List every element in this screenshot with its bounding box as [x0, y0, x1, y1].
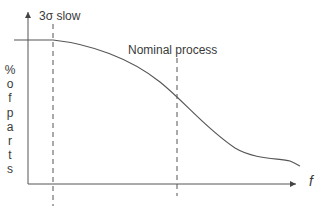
- nominal-process-label: Nominal process: [128, 44, 217, 56]
- y-axis-label-char: s: [4, 162, 16, 176]
- y-axis-label-char: t: [4, 148, 16, 162]
- sigma-slow-label: 3σ slow: [39, 10, 80, 22]
- chart-canvas: [0, 0, 331, 209]
- x-axis-label: f: [309, 174, 313, 188]
- y-axis-label-char: a: [4, 120, 16, 134]
- y-axis-label: % o f p a r t s: [4, 63, 16, 177]
- y-axis-label-char: %: [4, 63, 16, 77]
- distribution-curve: [14, 40, 300, 166]
- y-axis-label-char: f: [4, 91, 16, 105]
- y-axis-label-char: o: [4, 77, 16, 91]
- y-axis-label-char: p: [4, 106, 16, 120]
- y-axis-label-char: r: [4, 134, 16, 148]
